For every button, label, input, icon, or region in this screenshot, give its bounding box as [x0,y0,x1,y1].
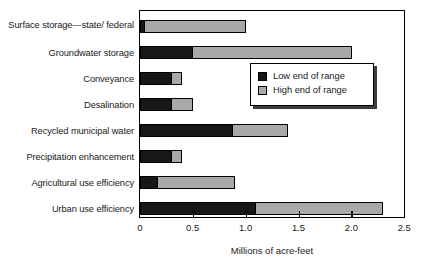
y-axis-tick-label: Recycled municipal water [0,126,134,137]
x-axis-tick-label: 1.5 [279,222,319,233]
bar-segment-low [140,20,145,33]
bar-segment-low [140,72,172,85]
bar-chart: Surface storage—state/ federal Groundwat… [0,0,423,271]
bar-row [140,20,405,33]
y-axis-tick-label: Precipitation enhancement [0,152,134,163]
x-axis-tick [246,211,247,217]
y-axis-labels: Surface storage—state/ federal Groundwat… [0,10,134,218]
bar-segment-low [140,46,193,59]
legend-swatch-low-icon [258,72,267,81]
bar-row [140,150,405,163]
legend-swatch-high-icon [258,86,267,95]
legend-item-high: High end of range [258,83,365,97]
y-axis-tick-label: Conveyance [0,74,134,85]
x-axis-tick-label: 2.0 [331,222,371,233]
x-axis-tick-label: 1.0 [226,222,266,233]
bar-segment-low [140,98,172,111]
x-axis-tick [299,211,300,217]
x-axis-title: Millions of acre-feet [139,245,405,256]
y-axis-tick-label: Urban use efficiency [0,204,134,215]
y-axis-tick-label: Groundwater storage [0,48,134,59]
plot-area [139,10,405,218]
x-axis-tick-label: 0 [120,222,160,233]
bar-segment-high [140,20,246,33]
legend-label: High end of range [273,85,347,95]
y-axis-tick-label: Agricultural use efficiency [0,178,134,189]
bar-segment-low [140,150,172,163]
bar-row [140,46,405,59]
x-axis-tick-label: 2.5 [384,222,423,233]
x-axis-tick-label: 0.5 [173,222,213,233]
bar-segment-low [140,202,256,215]
y-axis-tick-label: Desalination [0,100,134,111]
legend-label: Low end of range [273,71,345,81]
bar-row [140,124,405,137]
bar-row [140,176,405,189]
bar-segment-low [140,176,158,189]
legend-item-low: Low end of range [258,69,365,83]
x-axis-tick [351,211,352,217]
bar-segment-low [140,124,233,137]
y-axis-tick-label: Surface storage—state/ federal [0,20,134,31]
x-axis-tick [193,211,194,217]
legend: Low end of range High end of range [250,63,374,106]
bar-row [140,202,405,215]
